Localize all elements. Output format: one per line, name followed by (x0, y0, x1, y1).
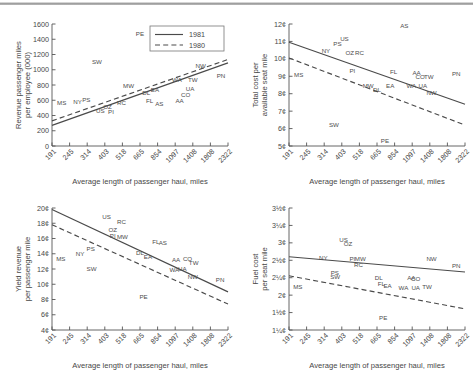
y-tick-label: 6¢ (278, 124, 286, 133)
x-tick-label: 665 (368, 331, 383, 346)
data-point-PE: PE (136, 30, 144, 37)
trend-line-1981 (52, 63, 228, 126)
x-tick-label: 518 (113, 331, 128, 346)
x-tick-label: 1408 (181, 147, 199, 165)
data-point-AA: AA (172, 256, 181, 263)
y-tick-label: 1½¢ (272, 308, 286, 317)
data-point-MS: MS (293, 283, 302, 290)
top-divider-rule (0, 2, 473, 5)
y-tick-label: 3¢ (278, 238, 286, 247)
data-point-NY: NY (319, 254, 328, 261)
data-point-TW: TW (189, 259, 199, 266)
data-point-TW: TW (424, 73, 434, 80)
y-tick-label: 200 (37, 126, 49, 135)
y-axis-title-total-cost-per-available-seat-mile: Total cost peravailable seat mile (251, 54, 269, 116)
x-tick-label: 1097 (400, 147, 418, 165)
x-axis-title-fuel-cost-per-seat-mile: Average length of passenger haul, miles (309, 361, 445, 370)
data-point-US: US (102, 213, 111, 220)
x-tick-label: 854 (149, 147, 164, 162)
data-point-NY: NY (322, 47, 331, 54)
chart-svg-total-cost-per-available-seat-mile: 5¢6¢7¢8¢9¢10¢11¢12¢191245314403518665854… (237, 6, 473, 192)
data-point-NW: NW (426, 255, 436, 262)
x-tick-label: 314 (78, 331, 93, 346)
x-tick-label: 245 (298, 331, 313, 346)
legend-label-1980: 1980 (189, 41, 205, 50)
x-tick-label: 2322 (453, 147, 471, 165)
data-point-PE: PE (379, 314, 387, 321)
y-tick-label: 1¼¢ (272, 326, 286, 335)
data-point-EA: EA (151, 86, 160, 93)
y-tick-label: 6¢ (41, 310, 49, 319)
data-point-EA: EA (144, 253, 153, 260)
y-tick-label: 2¼¢ (272, 273, 286, 282)
data-point-SW: SW (329, 121, 339, 128)
data-point-CO: CO (181, 91, 190, 98)
data-point-WA: WA (406, 82, 417, 89)
x-tick-label: 2322 (216, 147, 234, 165)
chart-panel-yield-revenue-per-passenger-mile: 4¢6¢8¢10¢12¢14¢16¢18¢20¢1912453144035186… (0, 190, 236, 374)
x-tick-label: 314 (315, 147, 330, 162)
data-point-UA: UA (186, 85, 195, 92)
y-tick-label: 7¢ (278, 107, 286, 116)
data-point-CO: CO (411, 275, 420, 282)
chart-svg-fuel-cost-per-seat-mile: 1¼¢1½¢2¢2¼¢2½¢3¢3¼¢3½¢191245314403518665… (237, 190, 473, 374)
y-tick-label: 3½¢ (272, 204, 286, 213)
data-point-AS: AS (159, 239, 167, 246)
y-axis-title-line2: per passenger mile (23, 237, 32, 302)
data-point-AS: AS (400, 22, 408, 29)
data-point-SW: SW (330, 273, 340, 280)
y-axis-title-line1: Fuel cost (251, 253, 260, 285)
data-point-FL: FL (146, 97, 154, 104)
y-tick-label: 20¢ (37, 204, 49, 213)
y-tick-label: 400 (37, 111, 49, 120)
x-tick-label: 518 (350, 331, 365, 346)
x-tick-label: 245 (61, 147, 76, 162)
data-point-NY: NY (73, 98, 82, 105)
y-tick-label: 800 (37, 81, 49, 90)
y-axis-title-fuel-cost-per-seat-mile: Fuel costper seat mile (251, 247, 269, 290)
x-tick-label: 854 (149, 331, 164, 346)
x-tick-label: 245 (61, 331, 76, 346)
y-tick-label: 14¢ (37, 249, 49, 258)
y-tick-label: 2½¢ (272, 256, 286, 265)
y-tick-label: 1200 (33, 50, 49, 59)
data-point-PN: PN (452, 70, 461, 77)
y-tick-label: 10¢ (274, 54, 286, 63)
x-tick-label: 665 (368, 147, 383, 162)
y-axis-ticks-yield-revenue-per-passenger-mile: 4¢6¢8¢10¢12¢14¢16¢18¢20¢ (37, 204, 56, 335)
x-tick-label: 1408 (181, 331, 199, 349)
x-tick-label: 2322 (216, 331, 234, 349)
y-axis-title-line1: Yield revenue (14, 246, 23, 292)
y-tick-label: 11¢ (275, 37, 286, 46)
data-point-WA: WA (399, 284, 410, 291)
x-tick-label: 1408 (418, 331, 436, 349)
y-axis-title-line1: Revenue passenger miles (14, 41, 23, 129)
data-point-NY: NY (76, 250, 85, 257)
data-point-PI: PI (108, 108, 114, 115)
y-tick-label: 600 (37, 96, 49, 105)
x-axis-title-total-cost-per-available-seat-mile: Average length of passenger haul, miles (309, 177, 445, 186)
axes-yield-revenue-per-passenger-mile (52, 208, 228, 330)
y-tick-label: 10¢ (37, 280, 49, 289)
data-point-PE: PE (139, 293, 147, 300)
x-tick-label: 1808 (199, 147, 217, 165)
x-tick-label: 665 (131, 147, 146, 162)
data-point-RC: RC (117, 218, 126, 225)
chart-svg-revenue-passenger-miles: 0200400600800100012001400160019124531440… (0, 6, 236, 192)
trend-line-1981 (289, 42, 465, 104)
y-axis-ticks-revenue-passenger-miles: 02004006008001000120014001600 (33, 20, 56, 151)
data-point-labels-fuel-cost-per-seat-mile: MSNYPSSWUSOZPIMWRCDLFLPEEAWAAACOUATWNWPN (293, 236, 460, 321)
trend-line-1981 (289, 257, 465, 272)
y-axis-title-line2: available seat mile (260, 54, 269, 116)
x-tick-label: 245 (298, 147, 313, 162)
y-tick-label: 1400 (33, 35, 49, 44)
axes-fuel-cost-per-seat-mile (289, 208, 465, 330)
data-point-NW: NW (426, 89, 436, 96)
data-point-MS: MS (294, 71, 303, 78)
chart-panel-total-cost-per-available-seat-mile: 5¢6¢7¢8¢9¢10¢11¢12¢191245314403518665854… (237, 6, 473, 192)
data-point-NW: NW (196, 62, 206, 69)
y-tick-label: 1600 (33, 20, 49, 29)
y-tick-label: 1000 (33, 65, 49, 74)
x-tick-label: 1808 (436, 147, 454, 165)
data-point-WA: WA (172, 76, 183, 83)
